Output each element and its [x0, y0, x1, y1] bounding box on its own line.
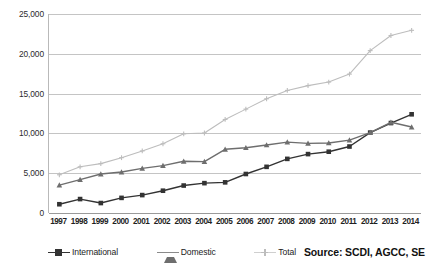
legend-item-domestic: Domestic — [157, 247, 216, 257]
y-axis-tick-label: 10,000 — [0, 129, 44, 137]
y-axis-tick-label: 25,000 — [0, 10, 44, 18]
cross-marker-icon — [306, 83, 311, 88]
square-marker-icon — [119, 196, 124, 201]
plot-area — [48, 14, 421, 213]
x-axis-tick-label: 2012 — [359, 218, 380, 232]
x-axis-tick-label: 2004 — [193, 218, 214, 232]
cross-marker-icon — [98, 161, 103, 166]
square-marker-icon — [409, 112, 414, 117]
square-marker-icon — [48, 248, 70, 257]
cross-marker-icon — [254, 248, 276, 257]
square-marker-icon — [285, 157, 290, 162]
x-axis: 1997199819992000200120022003200420052006… — [48, 218, 421, 232]
square-marker-icon — [181, 183, 186, 188]
cross-marker-icon — [326, 80, 331, 85]
triangle-marker-icon — [157, 248, 179, 257]
y-axis: 05,00010,00015,00020,00025,000 — [0, 0, 44, 272]
square-marker-icon — [99, 201, 104, 206]
series-line-domestic — [59, 122, 411, 185]
x-axis-tick-label: 2000 — [110, 218, 131, 232]
square-marker-icon — [244, 172, 249, 177]
x-axis-tick-label: 2009 — [297, 218, 318, 232]
series-line-international — [59, 114, 411, 204]
x-axis-tick-label: 2002 — [152, 218, 173, 232]
cross-marker-icon — [243, 107, 248, 112]
series-canvas — [49, 14, 422, 213]
square-marker-icon — [202, 181, 207, 186]
x-axis-tick-label: 2003 — [172, 218, 193, 232]
legend-item-total: Total — [254, 247, 296, 257]
y-axis-tick-label: 5,000 — [0, 169, 44, 177]
x-axis-tick-label: 2014 — [400, 218, 421, 232]
x-axis-tick-label: 1997 — [48, 218, 69, 232]
cross-marker-icon — [161, 141, 166, 146]
x-axis-tick-label: 2001 — [131, 218, 152, 232]
square-marker-icon — [140, 193, 145, 198]
source-note: Source: SCDI, AGCC, SE — [304, 243, 425, 261]
cross-marker-icon — [78, 164, 83, 169]
x-axis-tick-label: 1999 — [89, 218, 110, 232]
x-axis-tick-label: 1998 — [69, 218, 90, 232]
x-axis-tick-label: 2010 — [317, 218, 338, 232]
x-axis-tick-label: 2011 — [338, 218, 359, 232]
square-marker-icon — [326, 149, 331, 154]
series-line-total — [59, 30, 411, 174]
x-axis-tick-label: 2005 — [214, 218, 235, 232]
cross-marker-icon — [409, 28, 414, 33]
axis-baseline — [49, 213, 421, 214]
x-axis-tick-label: 2008 — [276, 218, 297, 232]
cross-marker-icon — [57, 172, 62, 177]
legend-label-international: International — [72, 247, 118, 257]
square-marker-icon — [347, 144, 352, 149]
legend-label-total: Total — [278, 247, 296, 257]
cross-marker-icon — [119, 155, 124, 160]
chart-figure: 05,00010,00015,00020,00025,000 199719981… — [0, 0, 431, 272]
y-axis-tick-label: 0 — [0, 209, 44, 217]
square-marker-icon — [306, 152, 311, 157]
x-axis-tick-label: 2013 — [380, 218, 401, 232]
square-marker-icon — [223, 180, 228, 185]
square-marker-icon — [78, 197, 83, 202]
legend-item-international: International — [48, 247, 118, 257]
y-axis-tick-label: 15,000 — [0, 90, 44, 98]
legend-label-domestic: Domestic — [181, 247, 216, 257]
cross-marker-icon — [264, 96, 269, 101]
chart-legend: International Domestic Total — [48, 243, 296, 261]
cross-marker-icon — [285, 88, 290, 93]
y-axis-tick-label: 20,000 — [0, 50, 44, 58]
cross-marker-icon — [140, 149, 145, 154]
x-axis-tick-label: 2006 — [234, 218, 255, 232]
x-axis-tick-label: 2007 — [255, 218, 276, 232]
cross-marker-icon — [181, 131, 186, 136]
square-marker-icon — [161, 188, 166, 193]
square-marker-icon — [57, 202, 62, 207]
square-marker-icon — [264, 165, 269, 170]
